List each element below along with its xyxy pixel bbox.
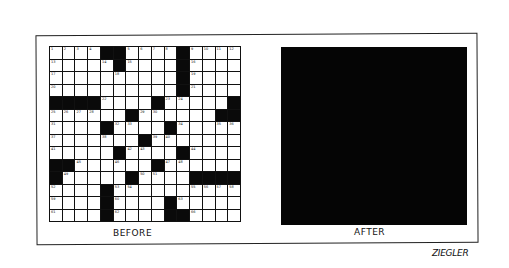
clue-number: 19 (191, 72, 195, 76)
grid-cell (203, 147, 215, 159)
grid-cell: 60 (114, 197, 126, 209)
black-cell (190, 172, 202, 184)
grid-cell: 35 (216, 122, 228, 134)
clue-number: 20 (51, 85, 55, 89)
clue-number: 41 (51, 147, 55, 151)
grid-cell (126, 85, 138, 97)
grid-cell (88, 72, 100, 84)
grid-cell (88, 210, 100, 222)
grid-cell: 12 (228, 47, 240, 59)
clue-number: 25 (51, 110, 55, 114)
grid-cell (139, 185, 151, 197)
clue-number: 51 (153, 172, 157, 176)
clue-number: 43 (140, 147, 144, 151)
black-cell (63, 160, 75, 172)
grid-cell (165, 110, 177, 122)
clue-number: 9 (191, 47, 193, 51)
grid-cell (139, 72, 151, 84)
black-cell (101, 185, 113, 197)
grid-cell (88, 197, 100, 209)
clue-number: 53 (115, 185, 119, 189)
clue-number: 39 (153, 135, 157, 139)
clue-number: 61 (51, 210, 55, 214)
grid-cell (75, 147, 87, 159)
grid-cell (75, 172, 87, 184)
black-cell (228, 172, 240, 184)
clue-number: 15 (127, 60, 131, 64)
grid-cell: 32 (114, 122, 126, 134)
clue-number: 26 (64, 110, 68, 114)
crossword-grid-before: 1234567891011121314151617181920212223242… (49, 46, 241, 222)
grid-cell (126, 210, 138, 222)
grid-cell (228, 197, 240, 209)
grid-cell (165, 172, 177, 184)
black-cell (126, 172, 138, 184)
grid-cell: 42 (126, 147, 138, 159)
clue-number: 57 (217, 185, 221, 189)
grid-cell (165, 85, 177, 97)
black-cell (152, 160, 164, 172)
black-cell (101, 210, 113, 222)
grid-cell (126, 72, 138, 84)
black-cell (126, 110, 138, 122)
black-cell (165, 122, 177, 134)
grid-cell: 39 (152, 135, 164, 147)
grid-cell (203, 97, 215, 109)
grid-cell (75, 72, 87, 84)
clue-number: 60 (115, 197, 119, 201)
grid-cell (216, 197, 228, 209)
grid-cell: 61 (50, 210, 62, 222)
clue-number: 56 (204, 185, 208, 189)
black-cell (88, 97, 100, 109)
grid-cell: 25 (50, 110, 62, 122)
grid-cell (139, 85, 151, 97)
clue-number: 40 (166, 135, 170, 139)
black-cell (114, 47, 126, 59)
grid-cell (216, 160, 228, 172)
grid-cell (152, 210, 164, 222)
grid-cell (101, 72, 113, 84)
grid-cell: 13 (50, 60, 62, 72)
grid-cell (88, 160, 100, 172)
grid-cell: 14 (101, 60, 113, 72)
grid-cell (75, 197, 87, 209)
grid-cell: 26 (63, 110, 75, 122)
grid-cell (126, 160, 138, 172)
grid-cell (190, 197, 202, 209)
grid-cell: 58 (228, 185, 240, 197)
grid-cell: 55 (190, 185, 202, 197)
grid-cell (139, 160, 151, 172)
grid-cell: 34 (177, 122, 189, 134)
grid-cell (228, 60, 240, 72)
grid-cell (88, 185, 100, 197)
grid-cell: 43 (139, 147, 151, 159)
black-cell (216, 172, 228, 184)
grid-cell (203, 85, 215, 97)
grid-cell: 17 (50, 72, 62, 84)
after-caption: AFTER (354, 227, 385, 237)
grid-cell (88, 135, 100, 147)
grid-cell (228, 85, 240, 97)
grid-cell (101, 147, 113, 159)
grid-cell: 18 (114, 72, 126, 84)
clue-number: 7 (153, 47, 155, 51)
clue-number: 38 (102, 135, 106, 139)
black-cell (101, 122, 113, 134)
grid-cell (63, 135, 75, 147)
grid-cell (75, 122, 87, 134)
clue-number: 4 (89, 47, 91, 51)
grid-cell: 41 (50, 147, 62, 159)
clue-number: 54 (127, 185, 131, 189)
grid-cell (139, 97, 151, 109)
grid-cell: 40 (165, 135, 177, 147)
black-square-after (281, 47, 467, 225)
clue-number: 42 (127, 147, 131, 151)
grid-cell (190, 122, 202, 134)
clue-number: 55 (191, 185, 195, 189)
clue-number: 14 (102, 60, 106, 64)
clue-number: 27 (76, 110, 80, 114)
grid-cell (228, 135, 240, 147)
clue-number: 44 (191, 147, 195, 151)
grid-cell: 16 (190, 60, 202, 72)
clue-number: 29 (140, 110, 144, 114)
